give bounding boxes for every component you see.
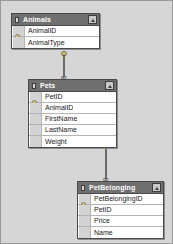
table-title: Pets bbox=[40, 81, 105, 91]
field-name: AnimalType bbox=[25, 38, 65, 48]
collapse-button[interactable] bbox=[105, 81, 114, 90]
field-name: PetID bbox=[42, 92, 63, 102]
table-header[interactable]: Pets bbox=[29, 80, 116, 92]
table-row[interactable]: Weight bbox=[29, 136, 116, 147]
field-gutter bbox=[13, 37, 25, 48]
table-title: Animals bbox=[23, 15, 88, 25]
field-name: Name bbox=[91, 228, 113, 238]
table-row[interactable]: FirstName bbox=[29, 114, 116, 125]
field-name: FirstName bbox=[42, 114, 77, 124]
table-fields: AnimalID AnimalType bbox=[12, 26, 99, 48]
field-name: AnimalID bbox=[42, 103, 73, 113]
relationship-animals-pets[interactable]: ∞ bbox=[59, 47, 71, 81]
table-petbelonging[interactable]: PetBelonging PetBelongingID bbox=[77, 181, 164, 239]
field-gutter bbox=[30, 125, 42, 135]
table-row[interactable]: AnimalID bbox=[12, 26, 99, 37]
field-gutter bbox=[79, 216, 91, 226]
primary-key-icon bbox=[81, 196, 89, 204]
table-grip-icon bbox=[31, 82, 38, 90]
field-name: PetID bbox=[91, 205, 112, 215]
field-name: LastName bbox=[42, 125, 77, 135]
relationship-diagram-canvas[interactable]: ∞ ∞ Animals bbox=[0, 0, 173, 244]
field-name: AnimalID bbox=[25, 26, 56, 36]
table-fields: PetID AnimalID FirstName LastName Weight bbox=[29, 92, 116, 147]
field-name: Price bbox=[91, 216, 110, 226]
table-row[interactable]: AnimalType bbox=[12, 37, 99, 48]
table-animals[interactable]: Animals AnimalID bbox=[11, 13, 100, 49]
primary-key-icon bbox=[32, 94, 40, 102]
table-title: PetBelonging bbox=[89, 183, 152, 193]
table-row[interactable]: AnimalID bbox=[29, 103, 116, 114]
table-fields: PetBelongingID PetID Price Name bbox=[78, 194, 163, 238]
table-header[interactable]: Animals bbox=[12, 14, 99, 26]
table-row[interactable]: PetID bbox=[29, 92, 116, 103]
field-gutter bbox=[13, 26, 25, 36]
table-row[interactable]: PetID bbox=[78, 205, 163, 216]
field-gutter bbox=[30, 114, 42, 124]
table-row[interactable]: LastName bbox=[29, 125, 116, 136]
field-name: Weight bbox=[42, 137, 67, 147]
collapse-button[interactable] bbox=[152, 183, 161, 192]
field-gutter bbox=[79, 227, 91, 238]
field-gutter bbox=[30, 103, 42, 113]
primary-key-icon bbox=[15, 28, 23, 36]
field-name: PetBelongingID bbox=[91, 194, 143, 204]
table-header[interactable]: PetBelonging bbox=[78, 182, 163, 194]
table-grip-icon bbox=[14, 16, 21, 24]
table-row[interactable]: Name bbox=[78, 227, 163, 238]
collapse-button[interactable] bbox=[88, 15, 97, 24]
field-gutter bbox=[79, 205, 91, 215]
field-gutter bbox=[30, 136, 42, 147]
table-pets[interactable]: Pets PetID bbox=[28, 79, 117, 148]
table-grip-icon bbox=[80, 184, 87, 192]
field-gutter bbox=[79, 194, 91, 204]
table-row[interactable]: PetBelongingID bbox=[78, 194, 163, 205]
field-gutter bbox=[30, 92, 42, 102]
table-row[interactable]: Price bbox=[78, 216, 163, 227]
